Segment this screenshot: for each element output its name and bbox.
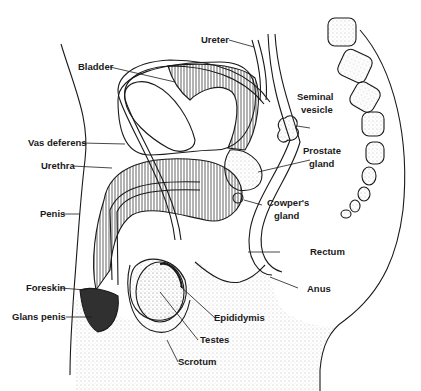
label-anus: Anus bbox=[307, 283, 331, 294]
label-urethra: Urethra bbox=[41, 160, 75, 171]
label-epididymis: Epididymis bbox=[214, 312, 265, 323]
rectum-outline bbox=[249, 34, 290, 275]
label-vas-deferens: Vas deferens bbox=[28, 137, 87, 148]
anatomy-diagram bbox=[0, 0, 421, 391]
label-cowpers-gland-line2: gland bbox=[274, 210, 299, 221]
label-bladder: Bladder bbox=[78, 61, 113, 72]
label-rectum: Rectum bbox=[310, 246, 345, 257]
label-testes: Testes bbox=[200, 334, 229, 345]
label-prostate-gland-line1: Prostate bbox=[303, 145, 341, 156]
seminal-vesicle bbox=[278, 116, 299, 142]
label-seminal-vesicle-line1: Seminal bbox=[297, 91, 333, 102]
label-scrotum: Scrotum bbox=[178, 356, 217, 367]
label-foreskin: Foreskin bbox=[26, 282, 66, 293]
label-glans-penis: Glans penis bbox=[12, 311, 66, 322]
label-seminal-vesicle-line2: vesicle bbox=[301, 104, 333, 115]
label-cowpers-gland-line1: Cowper's bbox=[267, 197, 309, 208]
label-prostate-gland-line2: gland bbox=[309, 158, 334, 169]
label-penis: Penis bbox=[40, 208, 65, 219]
label-ureter: Ureter bbox=[201, 34, 229, 45]
